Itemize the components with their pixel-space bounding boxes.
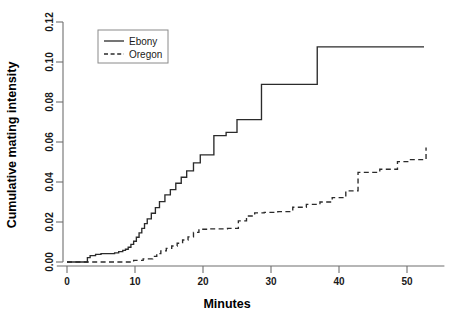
x-tick-label: 30 (265, 276, 277, 287)
x-tick-label: 10 (129, 276, 141, 287)
y-axis-title: Cumulative mating intensity (5, 62, 19, 229)
chart-canvas: 0.000.020.040.060.080.100.12 01020304050… (0, 0, 452, 321)
x-tick-label: 50 (401, 276, 413, 287)
series-line-ebony (67, 47, 424, 262)
chart-legend: EbonyOregon (98, 30, 168, 63)
x-tick-label: 40 (333, 276, 345, 287)
y-tick-label: 0.06 (44, 132, 55, 152)
y-tick-label: 0.00 (44, 252, 55, 272)
x-tick-label: 0 (64, 276, 70, 287)
series-line-oregon (67, 148, 426, 262)
x-axis-title: Minutes (203, 297, 250, 311)
y-tick-label: 0.08 (44, 92, 55, 112)
x-tick-label: 20 (197, 276, 209, 287)
y-axis: 0.000.020.040.060.080.100.12 (44, 12, 63, 272)
y-tick-label: 0.12 (44, 12, 55, 32)
y-tick-label: 0.04 (44, 172, 55, 192)
chart-figure: 0.000.020.040.060.080.100.12 01020304050… (0, 0, 452, 321)
series-layer (67, 47, 426, 262)
y-tick-label: 0.10 (44, 52, 55, 72)
y-tick-label: 0.02 (44, 212, 55, 232)
legend-label-oregon: Oregon (129, 49, 162, 60)
legend-label-ebony: Ebony (129, 36, 157, 47)
x-axis: 01020304050 (57, 266, 445, 287)
